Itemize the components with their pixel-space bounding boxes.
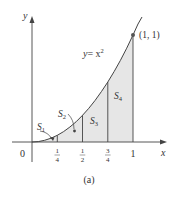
y-axis-arrow-icon xyxy=(30,16,35,23)
origin-label: 0 xyxy=(20,148,25,159)
tick-label-half: 1 2 xyxy=(80,147,86,164)
tick-label-one: 1 xyxy=(131,148,136,159)
point-marker xyxy=(131,33,135,37)
svg-text:2: 2 xyxy=(81,156,85,164)
region-label-s1: S1 xyxy=(37,122,45,133)
region-label-s2: S2 xyxy=(58,109,66,120)
equation-label: y= x2 xyxy=(82,47,104,59)
point-label: (1, 1) xyxy=(139,30,160,41)
svg-text:1: 1 xyxy=(81,147,85,155)
svg-text:4: 4 xyxy=(56,156,60,164)
svg-text:4: 4 xyxy=(106,156,110,164)
y-axis-label: y xyxy=(22,10,28,21)
x-axis-label: x xyxy=(160,147,166,158)
tick-label-quarter: 1 4 xyxy=(55,147,61,164)
svg-text:1: 1 xyxy=(56,147,60,155)
s2-leader-dot xyxy=(73,130,76,133)
figure-caption: (a) xyxy=(83,174,94,186)
parabola-area-diagram: y x 0 y= x2 (1, 1) S1 S2 S3 S4 1 4 1 2 3… xyxy=(0,0,178,198)
tick-label-three-quarter: 3 4 xyxy=(105,147,111,164)
x-axis-arrow-icon xyxy=(160,140,167,145)
svg-text:3: 3 xyxy=(106,147,110,155)
